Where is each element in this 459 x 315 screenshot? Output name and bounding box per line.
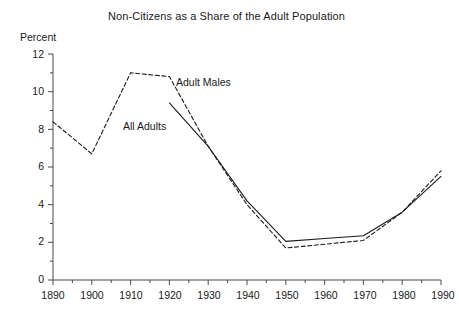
series-line-all-adults bbox=[169, 103, 441, 241]
axes bbox=[48, 54, 441, 285]
series-line-adult-males bbox=[53, 73, 441, 248]
data-series bbox=[53, 73, 441, 248]
